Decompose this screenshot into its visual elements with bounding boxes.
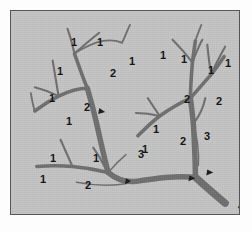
stream-order-label-2: 2 <box>84 102 90 113</box>
stream-order-label-2: 2 <box>110 68 116 79</box>
stream-order-label-4: 4 <box>238 201 240 212</box>
stream-order-label-1: 1 <box>49 93 55 104</box>
stream-order-label-1: 1 <box>97 37 103 48</box>
stream-order-4-trunk <box>195 177 225 203</box>
stream-order-label-1: 1 <box>66 116 72 127</box>
stream-order-label-1: 1 <box>129 56 135 67</box>
stream-order-label-1: 1 <box>71 37 77 48</box>
stream-order-label-1: 1 <box>40 174 46 185</box>
stream-order-label-2: 2 <box>85 180 91 191</box>
stream-order-label-2: 2 <box>216 96 222 107</box>
diagram-frame: 111211213111211211231124 <box>10 10 240 215</box>
stream-order-label-3: 3 <box>204 131 210 142</box>
figure-root: 111211213111211211231124 <box>0 0 252 232</box>
stream-order-label-1: 1 <box>57 66 63 77</box>
stream-order-label-1: 1 <box>208 65 214 76</box>
stream-order-label-1: 1 <box>153 124 159 135</box>
stream-order-label-1: 1 <box>160 50 166 61</box>
stream-order-label-1: 1 <box>50 153 56 164</box>
stream-order-label-2: 2 <box>180 136 186 147</box>
stream-order-label-1: 1 <box>142 144 148 155</box>
stream-order-label-1: 1 <box>225 58 231 69</box>
stream-order-label-1: 1 <box>93 153 99 164</box>
stream-order-label-1: 1 <box>181 54 187 65</box>
stream-order-label-2: 2 <box>184 94 190 105</box>
